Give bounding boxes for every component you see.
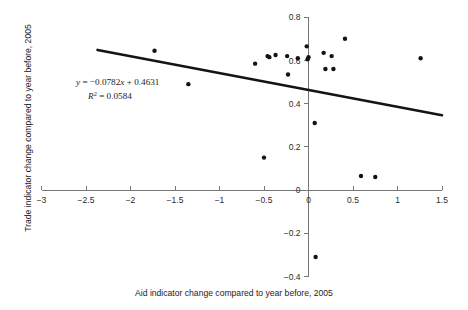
x-axis-tick-label: −1: [215, 195, 225, 205]
data-point: [285, 54, 289, 58]
y-axis-title: Trade indicator change compared to year …: [23, 24, 33, 232]
y-axis-tick-label: 0.2: [289, 142, 301, 152]
chart-page: −3−2.5−2−1.5−1−0.500.511.50.80.60.40.20−…: [0, 0, 468, 310]
data-point: [313, 121, 317, 125]
data-point: [273, 53, 277, 57]
regression-equation-label: y = −0.0782x + 0.4631: [75, 77, 160, 87]
scatter-plot: −3−2.5−2−1.5−1−0.500.511.50.80.60.40.20−…: [0, 0, 468, 310]
data-point: [286, 72, 290, 76]
x-axis-tick-label: 0: [306, 195, 311, 205]
data-point: [329, 54, 333, 58]
y-axis-tick-label: 0.8: [289, 12, 301, 22]
data-point: [313, 255, 317, 259]
x-axis-title: Aid indicator change compared to year be…: [135, 288, 333, 298]
data-point: [262, 155, 266, 159]
x-axis-tick-label: 0.5: [347, 195, 359, 205]
x-axis-tick-label: −2: [126, 195, 136, 205]
y-axis-tick-label: −0.4: [284, 272, 301, 282]
data-point: [323, 67, 327, 71]
x-axis-tick-label: 1.5: [436, 195, 448, 205]
data-point: [152, 48, 156, 52]
data-point: [418, 56, 422, 60]
data-point: [267, 55, 271, 59]
x-axis-tick-label: −1.5: [167, 195, 184, 205]
data-point: [296, 56, 300, 60]
data-point: [306, 55, 310, 59]
x-axis-tick-label: −0.5: [256, 195, 273, 205]
data-point: [373, 175, 377, 179]
data-point: [321, 51, 325, 55]
y-axis-tick-label: 0.4: [289, 99, 301, 109]
y-axis-tick-label: −0.2: [284, 228, 301, 238]
r-squared-label: R2 = 0.0584: [87, 90, 132, 101]
data-point: [305, 44, 309, 48]
x-axis-tick-label: 1: [395, 195, 400, 205]
y-axis-tick-label: 0: [296, 185, 301, 195]
data-point: [343, 37, 347, 41]
x-axis-tick-label: −3: [37, 195, 47, 205]
data-point: [186, 82, 190, 86]
data-point: [359, 174, 363, 178]
data-point: [253, 61, 257, 65]
data-point-group: [152, 37, 423, 260]
x-axis-tick-label: −2.5: [78, 195, 95, 205]
data-point: [331, 67, 335, 71]
